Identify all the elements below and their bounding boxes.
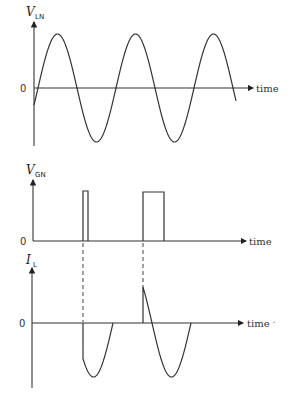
il-zero-label: 0 bbox=[19, 318, 25, 329]
vln-zero-label: 0 bbox=[20, 83, 26, 94]
vln-time-label: time bbox=[256, 83, 279, 94]
load-current-lobe-1 bbox=[83, 323, 113, 377]
load-current-lobe-2 bbox=[143, 287, 191, 377]
panel-vln: V LN 0 time bbox=[20, 5, 279, 146]
waveform-diagram: V LN 0 time V GN 0 time I L 0 time- bbox=[0, 0, 291, 410]
vgn-time-label: time bbox=[249, 236, 272, 247]
il-axis-label: I bbox=[25, 253, 31, 267]
il-time-label: time- bbox=[247, 318, 276, 329]
gate-pulse-2 bbox=[143, 192, 164, 241]
panel-vgn: V GN 0 time bbox=[20, 163, 272, 247]
vgn-axis-subscript: GN bbox=[35, 171, 46, 179]
panel-il: I L 0 time- bbox=[19, 253, 276, 388]
il-axis-subscript: L bbox=[33, 261, 37, 269]
gate-pulse-1 bbox=[83, 191, 88, 241]
vln-axis-subscript: LN bbox=[35, 13, 44, 21]
vgn-zero-label: 0 bbox=[20, 236, 26, 247]
